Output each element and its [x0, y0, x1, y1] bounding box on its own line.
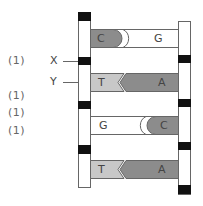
base-letter-c-1: C	[97, 32, 105, 45]
base-letter-c-3: C	[160, 119, 168, 132]
base-pair-1: C G	[91, 30, 179, 48]
base-a-2	[120, 74, 179, 92]
base-pairs: C G T A G C T A	[0, 0, 203, 206]
base-pair-4: T A	[91, 161, 179, 179]
base-letter-t-4: T	[97, 163, 105, 176]
base-t-2	[91, 74, 125, 92]
base-pair-2: T A	[91, 74, 179, 92]
base-letter-g-1: G	[154, 32, 163, 45]
base-letter-a-2: A	[158, 76, 166, 89]
base-pair-3: G C	[91, 117, 179, 135]
base-a-4	[120, 161, 179, 179]
base-letter-a-4: A	[158, 163, 166, 176]
base-c-1	[91, 30, 122, 48]
base-t-4	[91, 161, 125, 179]
base-letter-t-2: T	[97, 76, 105, 89]
base-letter-g-3: G	[99, 119, 108, 132]
